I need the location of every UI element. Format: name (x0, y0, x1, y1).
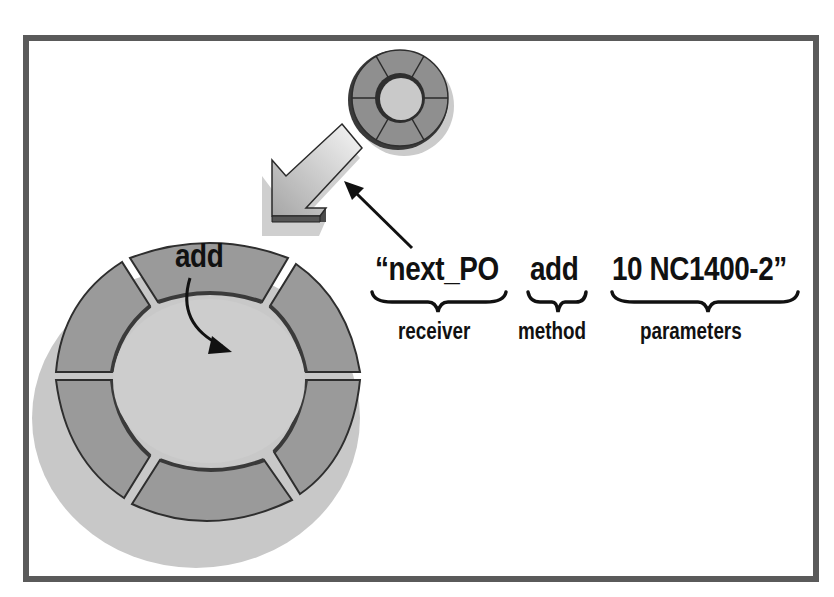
method-label: method (518, 318, 586, 345)
braces-layer (0, 0, 834, 597)
method-brace-icon (528, 292, 586, 312)
receiver-brace-icon (372, 292, 506, 312)
parameters-label: parameters (640, 318, 742, 345)
receiver-label: receiver (398, 318, 470, 345)
parameters-brace-icon (612, 292, 798, 312)
